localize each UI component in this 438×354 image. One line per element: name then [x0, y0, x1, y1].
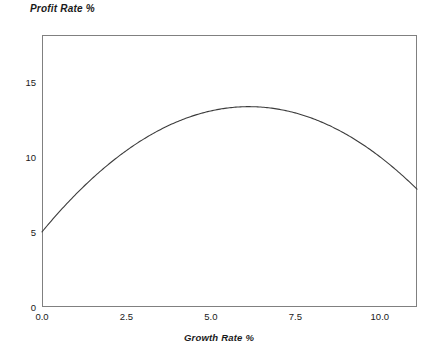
y-tick-label: 15	[25, 76, 36, 87]
y-axis-tick-labels: 051015	[0, 0, 36, 354]
x-tick-label: 7.5	[289, 311, 302, 322]
x-tick-label: 10.0	[371, 311, 390, 322]
x-axis-label: Growth Rate %	[0, 332, 438, 343]
curve-path	[42, 107, 417, 232]
profit-rate-curve	[42, 35, 417, 307]
y-tick-label: 5	[31, 226, 36, 237]
chart-figure: Profit Rate % 051015 0.02.55.07.510.0 Gr…	[0, 0, 438, 354]
chart-title: Profit Rate %	[30, 3, 95, 14]
x-tick-label: 0.0	[35, 311, 48, 322]
y-tick-label: 10	[25, 151, 36, 162]
x-tick-label: 5.0	[204, 311, 217, 322]
x-tick-label: 2.5	[120, 311, 133, 322]
